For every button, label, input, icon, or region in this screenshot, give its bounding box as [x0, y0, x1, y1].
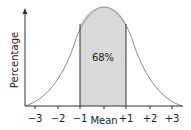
tick-label: −1	[73, 113, 88, 124]
tick-label: +3	[165, 113, 180, 124]
tick-label: −3	[28, 113, 43, 124]
y-axis-label: Percentage	[9, 32, 20, 88]
tick-label-mean: Mean	[90, 115, 117, 126]
tick-label: +2	[143, 113, 158, 124]
percentage-annotation: 68%	[92, 52, 114, 63]
y-axis-arrow-icon	[23, 8, 28, 14]
tick-label: +1	[119, 113, 134, 124]
normal-distribution-chart: −3 −2 −1 Mean +1 +2 +3 68% Percentage	[0, 0, 191, 130]
tick-label: −2	[51, 113, 66, 124]
